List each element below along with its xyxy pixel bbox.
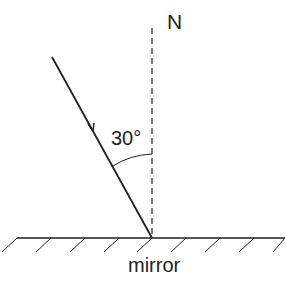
angle-label: 30° xyxy=(111,127,141,150)
normal-label: N xyxy=(167,10,182,34)
ray-arrow-icon xyxy=(88,123,94,131)
angle-arc xyxy=(113,154,152,166)
ray-diagram xyxy=(0,0,285,282)
mirror-hatching xyxy=(2,238,285,252)
mirror-label: mirror xyxy=(128,254,180,277)
